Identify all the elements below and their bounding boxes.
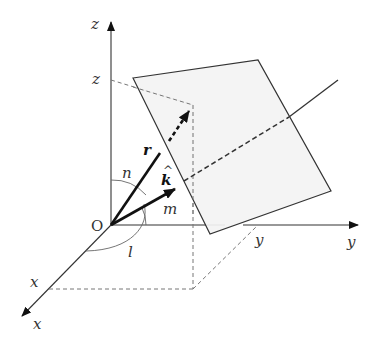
diagram-canvas: z z y y x x O r k ^ n m l (0, 0, 379, 344)
y-projection-dashed (193, 226, 257, 289)
position-vector-label: r (143, 141, 152, 159)
origin-label: O (91, 217, 103, 235)
z-axis-label: z (90, 15, 99, 33)
diagram-svg: z z y y x x O r k ^ n m l (0, 0, 379, 344)
x-tick-label: x (30, 273, 39, 291)
x-axis-label: x (33, 315, 42, 333)
y-axis-label: y (346, 233, 356, 251)
angle-l-label: l (128, 243, 133, 261)
angle-n-label: n (122, 164, 132, 182)
position-vector-r (111, 153, 160, 225)
unit-normal-hat: ^ (163, 164, 173, 178)
y-tick-label: y (254, 231, 264, 249)
z-tick-label: z (91, 70, 100, 88)
angle-m-label: m (163, 200, 177, 218)
x-axis (22, 225, 111, 316)
normal-line (289, 80, 338, 117)
